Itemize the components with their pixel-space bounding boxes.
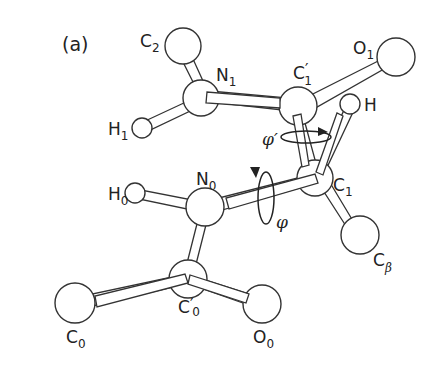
label-h1: H1: [108, 119, 128, 143]
label-c0: C0: [66, 327, 86, 351]
label-phi-prime: φ′: [262, 129, 278, 149]
label-c-beta: Cβ: [373, 250, 392, 275]
atom-cb: [341, 216, 379, 254]
label-h: H: [364, 95, 377, 115]
arrowhead-icon: [318, 127, 328, 136]
molecule-diagram: (a): [0, 0, 437, 374]
bonds: [78, 48, 398, 309]
stub-c1-h: [316, 113, 343, 175]
label-c1-prime: C′1: [293, 61, 312, 88]
label-c0-prime: C′0: [178, 296, 200, 319]
label-phi: φ: [276, 212, 288, 232]
atom-h: [340, 94, 360, 114]
atom-h1: [132, 118, 152, 138]
label-c2: C2: [140, 31, 160, 55]
atom-c0: [55, 283, 95, 323]
panel-label: (a): [62, 33, 88, 55]
arrowhead-icon: [250, 167, 260, 178]
label-n1: N1: [216, 65, 236, 89]
atom-o1: [377, 38, 415, 76]
atom-c2: [165, 28, 201, 64]
atom-o0: [243, 285, 281, 323]
label-o1: O1: [353, 38, 374, 62]
label-h0: H0: [108, 184, 128, 208]
atom-n0: [186, 188, 224, 226]
label-o0: O0: [253, 327, 274, 351]
